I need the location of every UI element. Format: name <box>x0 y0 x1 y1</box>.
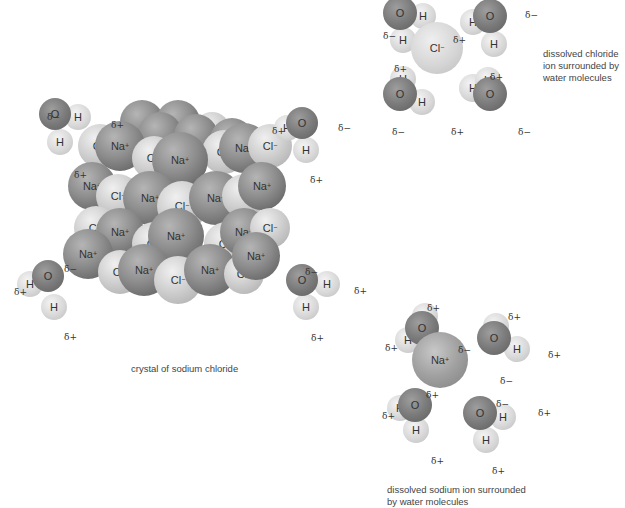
oxygen-atom: O <box>477 321 511 355</box>
hydrogen-atom: H <box>473 427 499 453</box>
partial-positive-label: δ+ <box>548 351 561 360</box>
partial-positive-label: δ+ <box>492 467 505 476</box>
chloride-caption: dissolved chloride ion surrounded by wat… <box>543 48 619 84</box>
sodium-caption: dissolved sodium ion surrounded by water… <box>387 484 526 508</box>
partial-positive-label: δ+ <box>538 409 551 418</box>
sodium-caption-line-1: dissolved sodium ion surrounded <box>387 484 526 496</box>
chloride-caption-line-3: water molecules <box>543 72 619 84</box>
partial-positive-label: δ+ <box>385 344 398 353</box>
partial-negative-label: δ− <box>496 400 509 409</box>
crystal-caption: crystal of sodium chloride <box>131 363 238 375</box>
oxygen-atom: O <box>463 396 497 430</box>
chloride-caption-line-1: dissolved chloride <box>543 48 619 60</box>
sodium-caption-line-2: by water molecules <box>387 496 526 508</box>
partial-positive-label: δ+ <box>427 304 440 313</box>
dissolved-sodium-panel: HHOHHOHHOHHONa+δ+δ+δ+δ−δ+δ−δ+δ−δ+δ+δ+δ+ <box>0 0 625 508</box>
partial-positive-label: δ+ <box>426 391 439 400</box>
partial-negative-label: δ− <box>458 346 471 355</box>
chloride-caption-line-2: ion surrounded by <box>543 60 619 72</box>
partial-positive-label: δ+ <box>508 313 521 322</box>
partial-negative-label: δ− <box>500 377 513 386</box>
dissolved-sodium-ion: Na+ <box>412 332 468 388</box>
partial-positive-label: δ+ <box>382 412 395 421</box>
partial-positive-label: δ+ <box>431 457 444 466</box>
